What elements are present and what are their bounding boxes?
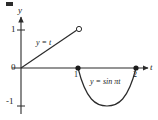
open-circle-marker-at-one-one bbox=[76, 26, 81, 31]
line-equation-annotation: y = t bbox=[36, 39, 51, 47]
function-graph-figure: y t 1 -1 0 1 2 y = t y = sin πt bbox=[0, 0, 158, 120]
sine-curve-path bbox=[78, 68, 136, 106]
x-point-label-two: 2 bbox=[133, 71, 137, 79]
sine-equation-annotation: y = sin πt bbox=[90, 78, 121, 86]
plot-canvas bbox=[0, 0, 158, 120]
x-point-label-one: 1 bbox=[74, 71, 78, 79]
y-tick-label-negative-one: -1 bbox=[6, 97, 14, 106]
line-segment-y-equals-t bbox=[21, 30, 77, 68]
y-tick-label-one: 1 bbox=[11, 25, 16, 34]
y-axis-label: y bbox=[18, 6, 22, 15]
origin-label: 0 bbox=[11, 63, 16, 72]
x-axis-label: t bbox=[150, 63, 153, 72]
